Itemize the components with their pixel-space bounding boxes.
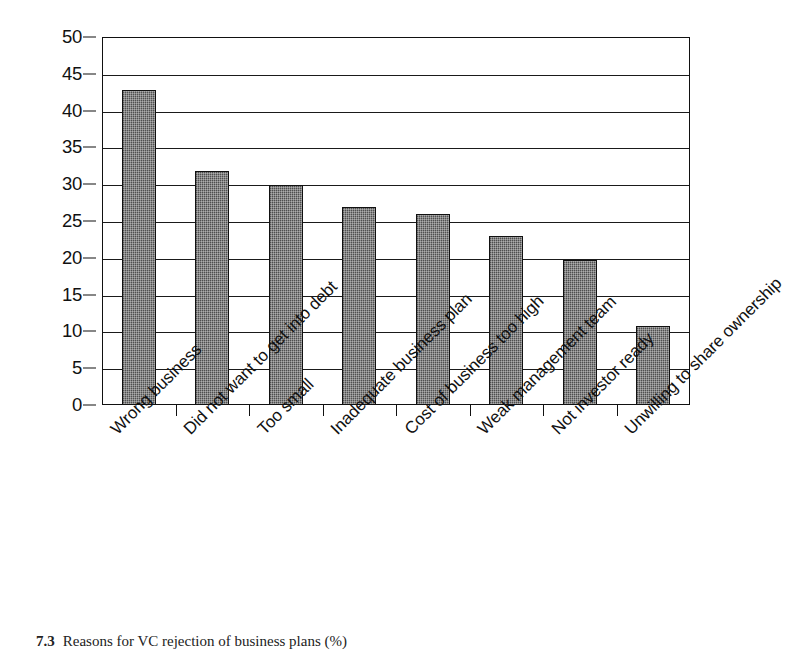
y-tick-mark <box>83 294 96 295</box>
caption-number: 7.3 <box>36 633 55 649</box>
gridline <box>103 75 689 76</box>
gridline <box>103 332 689 333</box>
y-tick-mark <box>83 110 96 111</box>
y-tick-label: 30 <box>62 173 82 195</box>
gridline <box>103 259 689 260</box>
y-tick-mark <box>83 257 96 258</box>
y-tick-mark <box>83 37 96 38</box>
y-tick-label: 10 <box>62 320 82 342</box>
gridline <box>103 148 689 149</box>
figure-caption: 7.3Reasons for VC rejection of business … <box>36 633 696 650</box>
y-tick-mark <box>83 331 96 332</box>
y-tick-mark <box>83 221 96 222</box>
y-tick-label: 45 <box>62 63 82 85</box>
y-tick-label: 25 <box>62 210 82 232</box>
gridline <box>103 222 689 223</box>
y-tick-label: 40 <box>62 100 82 122</box>
gridline <box>103 112 689 113</box>
caption-text: Reasons for VC rejection of business pla… <box>63 633 347 649</box>
y-axis: 50454035302520151050 <box>0 37 96 405</box>
y-tick-label: 35 <box>62 136 82 158</box>
y-tick-label: 50 <box>62 26 82 48</box>
y-tick-mark <box>83 184 96 185</box>
x-axis-labels: Wrong businessDid not want to get into d… <box>0 405 714 610</box>
y-tick-label: 20 <box>62 247 82 269</box>
y-tick-mark <box>83 73 96 74</box>
y-tick-label: 15 <box>62 284 82 306</box>
gridline <box>103 185 689 186</box>
y-tick-mark <box>83 368 96 369</box>
y-tick-label: 5 <box>72 357 82 379</box>
y-tick-mark <box>83 147 96 148</box>
